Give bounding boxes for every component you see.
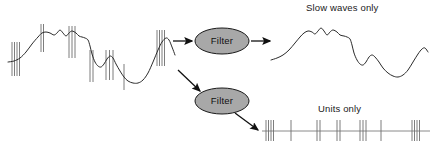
diagram-canvas: FilterFilter [0,0,434,150]
filtering-diagram: FilterFilter Slow waves only Units only [0,0,434,150]
raw-signal-line [8,30,175,83]
filter-nodes: FilterFilter [195,28,249,114]
units-label: Units only [318,103,361,114]
slow-waves-label: Slow waves only [306,2,378,13]
raw-signal-spikes [12,24,165,90]
raw-signal-trace [8,30,175,83]
arrow-filter-bottom-to-units [235,113,258,130]
slow-waves-line [271,28,428,77]
raw-signal-burst [41,24,44,52]
filter-bottom-label: Filter [211,95,233,106]
filter-top-label: Filter [211,35,233,46]
filter-bottom-node[interactable]: Filter [195,88,249,114]
raw-signal-burst [157,30,165,66]
arrow-input-to-filter-bottom [178,70,200,91]
filter-top-node[interactable]: Filter [195,28,249,54]
slow-waves-trace [271,28,428,77]
raw-signal-burst [106,50,113,80]
